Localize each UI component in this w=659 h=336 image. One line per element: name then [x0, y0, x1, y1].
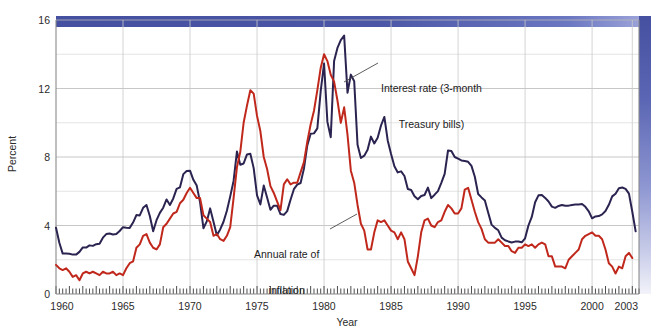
x-axis-tick-label: 1990 [435, 300, 481, 312]
y-axis-tick-label: 0 [24, 288, 50, 300]
x-axis-tick-label: 1995 [502, 300, 548, 312]
x-axis-tick-label: 2003 [603, 300, 649, 312]
data-series-group [56, 36, 636, 281]
y-axis-tick-label: 8 [24, 151, 50, 163]
x-axis-tick-label: 1985 [368, 300, 414, 312]
annotation-interest-rate-line1: Interest rate (3-month [381, 82, 482, 94]
x-axis-title: Year [324, 316, 370, 328]
x-axis-minor-ticks [56, 286, 639, 294]
annotation-interest-rate-line2: Treasury bills) [381, 118, 482, 130]
y-axis-tick-label: 4 [24, 220, 50, 232]
annotation-inflation-line2: inflation [254, 284, 319, 296]
annotation-interest-rate: Interest rate (3-month Treasury bills) [381, 58, 482, 154]
y-axis-tick-label: 16 [24, 14, 50, 26]
chart-svg [0, 0, 659, 336]
annotation-inflation-line1: Annual rate of [254, 248, 319, 260]
annotation-inflation: Annual rate of inflation [254, 224, 319, 320]
x-axis-tick-label: 1970 [167, 300, 213, 312]
x-axis-tick-label: 1960 [39, 300, 85, 312]
figure-container: 0481216 19601965197019751980198519901995… [0, 0, 659, 336]
y-axis-tick-label: 12 [24, 83, 50, 95]
x-axis-tick-label: 1965 [100, 300, 146, 312]
plot-area: 0481216 19601965197019751980198519901995… [0, 0, 659, 336]
y-axis-title: Percent [6, 124, 18, 184]
